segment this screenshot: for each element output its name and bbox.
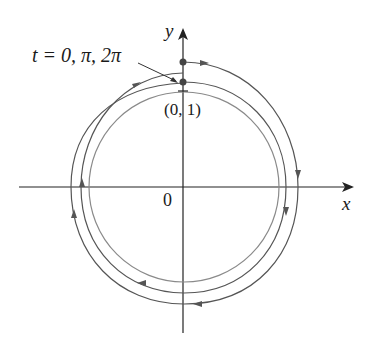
spiral-outer-loop	[71, 62, 298, 304]
annotation-pointer-head	[170, 77, 178, 83]
arrow-right-outer	[295, 170, 301, 179]
point-label: (0, 1)	[164, 100, 201, 120]
arrow-bottom-outer	[193, 301, 202, 307]
parameter-annotation: t = 0, π, 2π	[32, 44, 121, 67]
origin-label: 0	[163, 190, 172, 211]
arrow-left-outer	[71, 209, 77, 218]
return-point-dot	[180, 79, 187, 86]
y-axis-label: y	[165, 20, 173, 42]
annotation-pointer	[138, 63, 176, 81]
x-axis-label: x	[342, 193, 350, 215]
diagram-canvas: y x 0 t = 0, π, 2π (0, 1)	[0, 0, 366, 343]
arrow-left-middle	[79, 178, 85, 187]
start-point-dot	[180, 59, 187, 66]
